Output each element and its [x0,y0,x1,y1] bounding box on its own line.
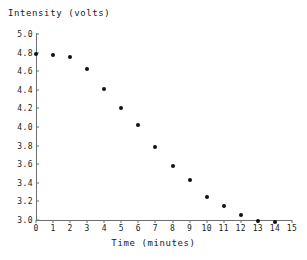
data-point [273,220,277,224]
x-axis-tick-mark [138,220,139,223]
data-point [68,55,72,59]
chart-figure: Intensity (volts) 5.04.84.64.44.24.03.83… [0,0,307,260]
y-axis-tick-mark [36,182,39,183]
y-axis-tick-label: 4.4 [17,85,33,94]
y-axis-tick-label: 5.0 [17,30,33,39]
data-point [222,204,226,208]
x-axis-tick-mark [172,220,173,223]
x-axis-tick-mark [240,220,241,223]
data-point [34,52,38,56]
x-axis-tick-mark [206,220,207,223]
x-axis-tick-mark [70,220,71,223]
x-axis-tick-label: 5 [119,224,124,233]
x-axis-tick-label: 14 [270,224,280,233]
x-axis-tick-mark [104,220,105,223]
x-axis-title: Time (minutes) [0,238,307,248]
x-axis-tick-label: 7 [153,224,158,233]
y-axis-tick-mark [36,108,39,109]
y-axis-tick-label: 3.4 [17,178,33,187]
data-point [256,219,260,223]
y-axis-title: Intensity (volts) [8,8,110,18]
data-point [171,164,175,168]
data-point [51,53,55,57]
x-axis-tick-label: 11 [219,224,229,233]
y-axis-tick-label: 4.8 [17,48,33,57]
x-axis-tick-mark [189,220,190,223]
data-point [136,123,140,127]
data-point [153,145,157,149]
x-axis-tick-label: 9 [187,224,192,233]
y-axis-tick-mark [36,145,39,146]
x-axis-tick-label: 0 [33,224,38,233]
y-axis-tick-label: 4.2 [17,104,33,113]
x-axis-tick-mark [53,220,54,223]
plot-area: 5.04.84.64.44.24.03.83.63.43.23.00123456… [36,34,292,220]
x-axis-tick-mark [36,220,37,223]
x-axis-tick-label: 6 [136,224,141,233]
y-axis-tick-label: 3.6 [17,160,33,169]
x-axis-tick-label: 13 [253,224,263,233]
x-axis-tick-mark [223,220,224,223]
y-axis-tick-label: 4.6 [17,67,33,76]
data-point [119,106,123,110]
x-axis-tick-label: 3 [85,224,90,233]
data-point [188,178,192,182]
data-point [102,87,106,91]
y-axis-tick-label: 3.2 [17,197,33,206]
data-point [85,67,89,71]
y-axis-tick-mark [36,201,39,202]
data-point [205,195,209,199]
x-axis-tick-mark [292,220,293,223]
y-axis-tick-mark [36,164,39,165]
x-axis-tick-mark [87,220,88,223]
x-axis-tick-mark [155,220,156,223]
y-axis-tick-mark [36,34,39,35]
y-axis-tick-label: 4.0 [17,123,33,132]
x-axis-tick-label: 12 [236,224,246,233]
x-axis-tick-label: 4 [102,224,107,233]
y-axis-tick-label: 3.0 [17,216,33,225]
x-axis-tick-label: 15 [287,224,297,233]
x-axis-line [36,220,292,221]
data-point [239,213,243,217]
x-axis-tick-label: 2 [68,224,73,233]
x-axis-tick-label: 8 [170,224,175,233]
x-axis-tick-mark [121,220,122,223]
y-axis-tick-mark [36,127,39,128]
y-axis-tick-label: 3.8 [17,141,33,150]
x-axis-tick-label: 1 [50,224,55,233]
y-axis-tick-mark [36,71,39,72]
y-axis-tick-mark [36,89,39,90]
x-axis-tick-label: 10 [201,224,211,233]
